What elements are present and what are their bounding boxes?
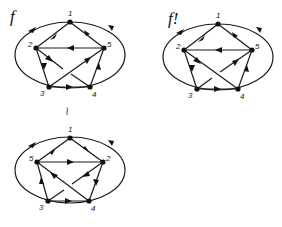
node-3	[45, 198, 50, 203]
node-3	[194, 86, 199, 91]
node-4	[86, 198, 91, 203]
arrow-5-2-icon	[215, 47, 222, 53]
node-1	[67, 19, 72, 24]
node-label-4: 4	[240, 92, 245, 101]
arrow-3-4-icon	[214, 86, 221, 92]
node-2	[100, 159, 105, 164]
graph-f: f 1 2 5 3 4	[10, 7, 125, 99]
diagram-canvas: f 1 2 5 3 4 f!	[0, 0, 282, 227]
edge-3-5	[49, 48, 104, 87]
arrow-5-2-icon	[67, 159, 74, 165]
node-label-5: 5	[255, 42, 260, 51]
ellipse-arrow-right-icon	[108, 140, 114, 146]
arrow-4-5-icon	[50, 172, 58, 179]
node-1	[67, 135, 72, 140]
node-2	[33, 45, 38, 50]
node-label-2: 2	[27, 40, 33, 49]
node-5	[34, 159, 39, 164]
node-label-1: 1	[68, 125, 72, 134]
node-label-1: 1	[68, 9, 72, 18]
node-3	[46, 84, 51, 89]
node-1	[215, 21, 220, 26]
graph-f-bang: f! 1 2 5 3 4	[163, 9, 273, 101]
arrow-5-2-icon	[67, 45, 74, 51]
arrow-3-4-icon	[66, 84, 73, 90]
ellipse-arrow-right-icon	[108, 25, 114, 31]
edge-2-3	[36, 48, 49, 87]
graph-label-f-bang: f!	[168, 9, 178, 28]
node-label-2: 2	[105, 154, 111, 163]
graph-label-f: f	[10, 7, 17, 26]
node-4	[235, 86, 240, 91]
arrow-1-2-icon	[83, 146, 90, 153]
edge-2-3	[184, 50, 197, 89]
ellipse-arrow-right-icon	[256, 27, 262, 33]
arrow-3-5-icon	[84, 57, 91, 64]
node-label-4: 4	[91, 204, 96, 213]
node-2	[181, 47, 186, 52]
node-label-3: 3	[39, 203, 44, 212]
arrow-3-5-icon	[232, 59, 239, 66]
node-4	[87, 84, 92, 89]
edge-3-5-a	[197, 78, 212, 89]
edge-2-3-b	[48, 190, 64, 201]
node-label-4: 4	[92, 90, 97, 99]
node-label-2: 2	[175, 42, 181, 51]
node-label-1: 1	[216, 11, 220, 20]
node-5	[101, 45, 106, 50]
edge-1-2	[36, 22, 70, 48]
arrow-2-4-icon	[93, 179, 99, 186]
node-label-3: 3	[188, 91, 193, 100]
node-5	[249, 47, 254, 52]
edge-2-4-b	[71, 74, 90, 87]
node-label-3: 3	[40, 89, 45, 98]
edge-4-5	[37, 162, 89, 201]
graph-f-relabeled: 1 5 2 3 4	[15, 125, 125, 213]
node-label-5: 5	[29, 154, 34, 163]
isomorphism-symbol: ≀	[65, 104, 70, 118]
node-label-5: 5	[107, 40, 112, 49]
edge-1-2	[184, 24, 218, 50]
